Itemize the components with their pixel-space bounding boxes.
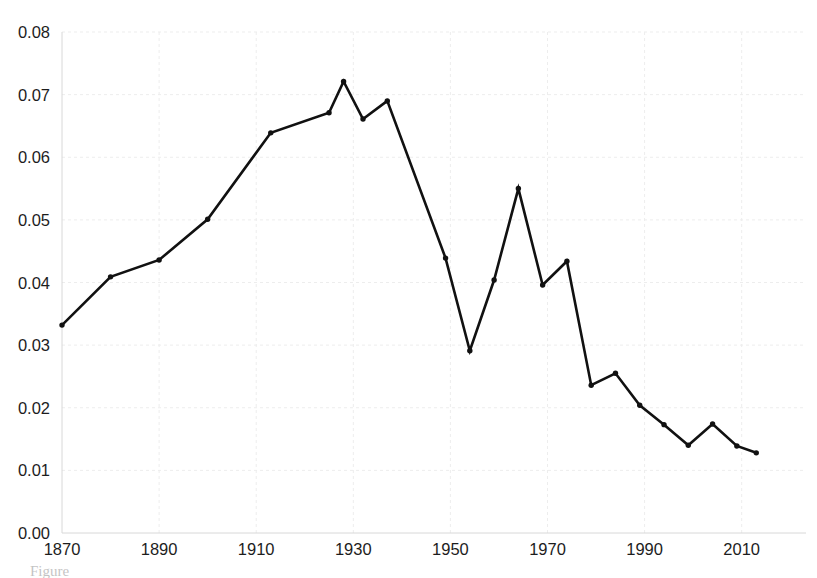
data-point-marker [491, 277, 496, 282]
x-axis-tick-label: 1890 [141, 540, 178, 558]
data-point-marker [734, 443, 739, 448]
data-point-marker [108, 274, 113, 279]
data-point-marker [59, 322, 64, 327]
y-axis-tick-label: 0.08 [18, 23, 50, 41]
x-axis-tick-label: 1990 [626, 540, 663, 558]
y-axis-tick-label: 0.05 [18, 211, 50, 229]
x-axis-tick-label: 1930 [335, 540, 372, 558]
y-axis-tick-label: 0.02 [18, 399, 50, 417]
data-point-marker [589, 383, 594, 388]
y-axis-tick-labels: 0.000.010.020.030.040.050.060.070.08 [18, 23, 50, 542]
data-point-marker [156, 257, 161, 262]
data-point-marker [443, 255, 448, 260]
x-axis-tick-label: 2010 [723, 540, 760, 558]
data-point-marker [710, 421, 715, 426]
x-axis-tick-label: 1910 [238, 540, 275, 558]
x-axis-tick-label: 1870 [44, 540, 81, 558]
x-axis-tick-label: 1970 [529, 540, 566, 558]
data-point-marker [326, 110, 331, 115]
data-point-marker [516, 186, 521, 191]
series-line-0 [62, 81, 756, 452]
x-axis-tick-label: 1950 [432, 540, 469, 558]
figure-caption-text: Figure [0, 564, 817, 578]
data-point-marker [385, 98, 390, 103]
y-axis-tick-label: 0.07 [18, 86, 50, 104]
gridlines-group [62, 32, 806, 533]
data-series-group [62, 81, 756, 452]
y-axis-tick-label: 0.06 [18, 148, 50, 166]
data-point-marker [686, 443, 691, 448]
line-chart: 0.000.010.020.030.040.050.060.070.08 187… [0, 0, 817, 578]
data-point-marker [540, 282, 545, 287]
data-point-marker [360, 116, 365, 121]
data-point-marker [268, 130, 273, 135]
figure-caption: Figure [0, 564, 817, 578]
chart-container: 0.000.010.020.030.040.050.060.070.08 187… [0, 0, 817, 578]
data-point-marker [637, 403, 642, 408]
y-axis-tick-label: 0.03 [18, 336, 50, 354]
data-point-marker [754, 450, 759, 455]
data-point-marker [341, 79, 346, 84]
data-point-marker [661, 422, 666, 427]
data-point-marker [613, 371, 618, 376]
y-axis-tick-label: 0.01 [18, 461, 50, 479]
data-point-marker [467, 348, 472, 353]
data-point-marker [205, 217, 210, 222]
data-point-marker [564, 259, 569, 264]
data-point-markers-group [59, 79, 759, 456]
y-axis-tick-label: 0.04 [18, 274, 50, 292]
x-axis-tick-labels: 18701890191019301950197019902010 [44, 540, 760, 558]
